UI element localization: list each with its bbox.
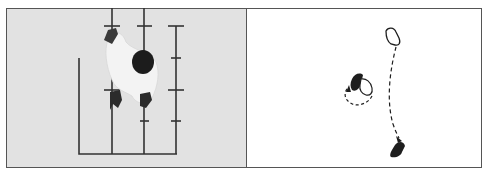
footprint-pivot-outline [360,79,372,95]
rotation-arrowhead [346,85,351,92]
footprint-start-outline [386,28,400,45]
movement-path-dashed [389,47,399,138]
hand-right [140,92,152,108]
footprint-end-filled [390,142,405,157]
footprint-diagram [345,28,405,157]
child-figure [104,28,158,110]
head-hair [132,50,154,74]
illustration-layer [0,0,486,174]
